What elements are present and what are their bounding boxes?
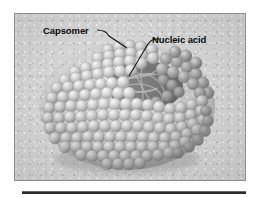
capsid-form-shading (39, 42, 215, 170)
label-nucleic-acid: Nucleic acid (152, 35, 206, 45)
figure-panel (14, 13, 246, 181)
capsid-diagram-svg (15, 14, 246, 181)
label-capsomer: Capsomer (43, 26, 89, 36)
virus-illustration (15, 14, 246, 181)
bottom-divider (22, 191, 246, 194)
